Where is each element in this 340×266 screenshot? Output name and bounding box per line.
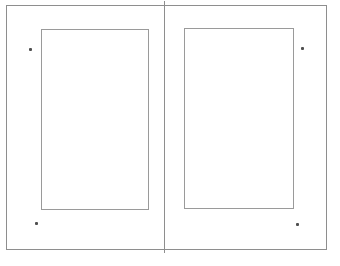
right-page-margin-box xyxy=(184,28,294,209)
dot-bottom-left xyxy=(35,222,38,225)
left-page-margin-box xyxy=(41,29,149,210)
spine-line xyxy=(164,1,165,253)
dot-top-right xyxy=(301,47,304,50)
dot-bottom-right xyxy=(296,223,299,226)
dot-top-left xyxy=(29,48,32,51)
two-page-spread-canvas xyxy=(0,0,340,266)
